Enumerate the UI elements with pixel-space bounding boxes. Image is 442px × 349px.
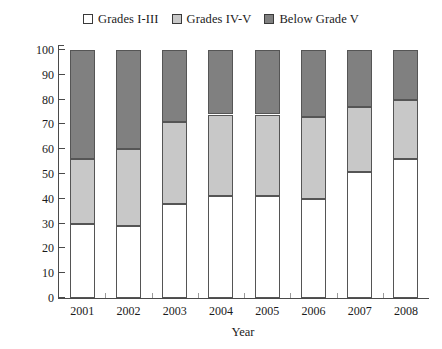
x-axis-tick-label: 2004 (209, 304, 233, 318)
bar-segment[interactable] (70, 224, 95, 298)
x-axis-tick (290, 293, 291, 298)
bar-segment[interactable] (347, 107, 372, 171)
y-axis-tick: 10 (59, 272, 65, 273)
bar-segment[interactable] (393, 50, 418, 100)
bar-segment[interactable] (162, 122, 187, 204)
x-axis-tick-label: 2008 (394, 304, 418, 318)
y-axis-tick-label: 60 (42, 141, 54, 157)
y-axis-tick: 50 (59, 173, 65, 174)
legend-label-below-grade-v: Below Grade V (279, 13, 359, 26)
y-axis-tick: 40 (59, 198, 65, 199)
y-axis-tick: 30 (59, 223, 65, 224)
y-axis-tick: 20 (59, 247, 65, 248)
y-axis-tick-label: 0 (48, 290, 54, 306)
x-axis-tick-label: 2003 (163, 304, 187, 318)
legend-label-grades-i-iii: Grades I-III (98, 13, 159, 26)
y-axis-tick: 80 (59, 99, 65, 100)
bar-stack (255, 50, 280, 298)
bar-segment[interactable] (70, 50, 95, 159)
legend-swatch-below-grade-v (264, 14, 274, 24)
x-axis-tick-label: 2005 (255, 304, 279, 318)
x-axis-tick-label: 2002 (116, 304, 140, 318)
chart-legend: Grades I-III Grades IV-V Below Grade V (0, 13, 442, 26)
legend-item-grades-iv-v: Grades IV-V (172, 13, 252, 26)
bar-segment[interactable] (70, 159, 95, 223)
x-axis-tick-label: 2007 (348, 304, 372, 318)
bar-segment[interactable] (116, 226, 141, 298)
y-axis-tick: 100 (59, 49, 65, 50)
y-axis-tick-label: 40 (42, 191, 54, 207)
y-axis-tick: 0 (59, 297, 65, 298)
bar-group[interactable]: 2003 (162, 50, 187, 298)
x-axis-tick (105, 293, 106, 298)
bar-segment[interactable] (162, 50, 187, 122)
bar-segment[interactable] (208, 196, 233, 298)
bar-group[interactable]: 2004 (208, 50, 233, 298)
y-axis-tick-label: 20 (42, 240, 54, 256)
bar-stack (208, 50, 233, 298)
x-axis-tick (152, 293, 153, 298)
bar-segment[interactable] (347, 172, 372, 298)
bar-stack (301, 50, 326, 298)
bar-segment[interactable] (393, 159, 418, 298)
bar-segment[interactable] (301, 117, 326, 199)
bar-group[interactable]: 2005 (255, 50, 280, 298)
y-axis-tick: 70 (59, 123, 65, 124)
y-axis-tick: 60 (59, 148, 65, 149)
bar-group[interactable]: 2002 (116, 50, 141, 298)
x-axis-title: Year (58, 325, 428, 340)
legend-item-below-grade-v: Below Grade V (264, 13, 359, 26)
plot-area: 0102030405060708090100 20012002200320042… (58, 50, 429, 299)
x-axis-tick (383, 293, 384, 298)
legend-label-grades-iv-v: Grades IV-V (187, 13, 252, 26)
bar-stack (70, 50, 95, 298)
bar-stack (162, 50, 187, 298)
bar-segment[interactable] (208, 50, 233, 114)
x-axis-tick-label: 2006 (301, 304, 325, 318)
bar-segment[interactable] (162, 204, 187, 298)
bar-segment[interactable] (347, 50, 372, 107)
legend-item-grades-i-iii: Grades I-III (83, 13, 159, 26)
y-axis-tick: 90 (59, 74, 65, 75)
y-axis-tick-label: 80 (42, 92, 54, 108)
bar-segment[interactable] (116, 149, 141, 226)
legend-swatch-grades-iv-v (172, 14, 182, 24)
bar-segment[interactable] (393, 100, 418, 160)
bar-group[interactable]: 2001 (70, 50, 95, 298)
bar-segment[interactable] (208, 115, 233, 197)
bar-group[interactable]: 2008 (393, 50, 418, 298)
bar-segment[interactable] (301, 50, 326, 117)
bar-group[interactable]: 2006 (301, 50, 326, 298)
y-axis-tick-label: 90 (42, 67, 54, 83)
legend-swatch-grades-i-iii (83, 14, 93, 24)
x-axis-tick (198, 293, 199, 298)
y-axis-tick-label: 50 (42, 166, 54, 182)
bar-segment[interactable] (301, 199, 326, 298)
stacked-bar-chart: Grades I-III Grades IV-V Below Grade V 0… (0, 0, 442, 349)
bar-segment[interactable] (116, 50, 141, 149)
bar-group[interactable]: 2007 (347, 50, 372, 298)
y-axis-tick-label: 100 (36, 42, 54, 58)
bar-stack (393, 50, 418, 298)
bar-stack (347, 50, 372, 298)
y-axis-tick-label: 10 (42, 265, 54, 281)
y-axis-tick-label: 70 (42, 116, 54, 132)
y-axis-tick-label: 30 (42, 216, 54, 232)
x-axis-tick (244, 293, 245, 298)
bar-segment[interactable] (255, 196, 280, 298)
bar-stack (116, 50, 141, 298)
bar-segment[interactable] (255, 50, 280, 114)
x-axis-tick-label: 2001 (70, 304, 94, 318)
bar-segment[interactable] (255, 115, 280, 197)
x-axis-tick (337, 293, 338, 298)
